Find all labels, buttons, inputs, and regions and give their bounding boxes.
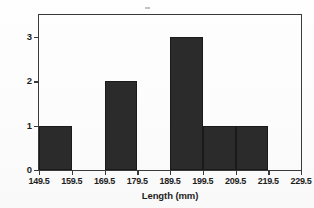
histogram-bar	[170, 37, 203, 170]
y-axis-tick-label: 2	[16, 75, 32, 86]
y-axis-tick	[34, 170, 38, 171]
histogram-bar	[236, 126, 269, 170]
x-axis-tick-label: 229.5	[278, 176, 314, 186]
y-axis-tick-label: 3	[16, 31, 32, 42]
y-axis-tick	[34, 37, 38, 38]
y-axis-tick-label: 1	[16, 120, 32, 131]
bars-layer	[39, 15, 301, 170]
x-axis-tick	[236, 171, 237, 175]
y-axis-tick	[34, 126, 38, 127]
histogram-bar	[203, 126, 236, 170]
x-axis-title: Length (mm)	[38, 190, 302, 201]
x-axis-tick	[301, 171, 302, 175]
x-axis-tick	[170, 171, 171, 175]
x-axis-tick	[203, 171, 204, 175]
x-axis-tick	[39, 171, 40, 175]
x-axis-tick	[72, 171, 73, 175]
x-axis-tick	[268, 171, 269, 175]
y-axis-tick-label: 0	[16, 164, 32, 175]
histogram-figure: Frequency Length (mm) 149.5159.5169.5179…	[0, 0, 314, 208]
scan-artifact	[145, 7, 150, 9]
histogram-bar	[39, 126, 72, 170]
histogram-bar	[105, 81, 138, 170]
x-axis-tick	[105, 171, 106, 175]
y-axis-tick	[34, 81, 38, 82]
x-axis-tick	[137, 171, 138, 175]
